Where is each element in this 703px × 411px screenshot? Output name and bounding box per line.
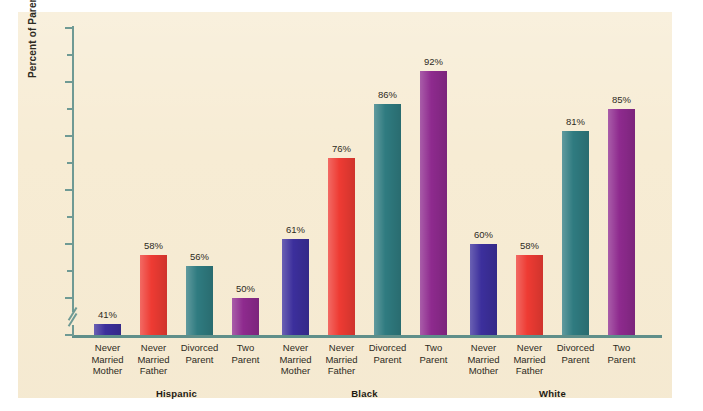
bar-value-label: 41%: [98, 309, 117, 320]
bar-hispanic-divorced-parent[interactable]: 56%: [186, 266, 213, 335]
bar-column: [420, 71, 447, 335]
x-category-label: TwoParent: [591, 342, 653, 365]
chart-figure: 100%90%80%70%60%50%0% Percent of Parents…: [0, 0, 703, 411]
x-category-label-line: Father: [123, 365, 185, 377]
bar-black-never-married-father[interactable]: 76%: [328, 158, 355, 335]
bar-black-divorced-parent[interactable]: 86%: [374, 104, 401, 335]
bar-hispanic-two-parent[interactable]: 50%: [232, 298, 259, 335]
bar-value-label: 60%: [474, 229, 493, 240]
bar-white-never-married-father[interactable]: 58%: [516, 255, 543, 335]
y-tick-0: [65, 334, 74, 336]
bar-hispanic-never-married-mother[interactable]: 41%: [94, 324, 121, 335]
y-tick-minor-55: [67, 270, 73, 272]
x-axis-line: [72, 335, 662, 338]
x-category-label-line: Parent: [591, 354, 653, 366]
bar-white-never-married-mother[interactable]: 60%: [470, 244, 497, 335]
axis-break-icon: [65, 308, 81, 328]
bar-black-two-parent[interactable]: 92%: [420, 71, 447, 335]
bar-value-label: 58%: [144, 240, 163, 251]
bar-value-label: 50%: [236, 283, 255, 294]
x-category-label-line: Two: [591, 342, 653, 354]
bar-value-label: 85%: [612, 94, 631, 105]
y-tick-minor-75: [67, 162, 73, 164]
bar-value-label: 76%: [332, 143, 351, 154]
y-tick-minor-65: [67, 216, 73, 218]
bar-white-divorced-parent[interactable]: 81%: [562, 131, 589, 335]
y-tick-minor-95: [67, 54, 73, 56]
bar-value-label: 61%: [286, 224, 305, 235]
bar-white-two-parent[interactable]: 85%: [608, 109, 635, 335]
x-category-label-line: Father: [499, 365, 561, 377]
group-label-black: Black: [295, 388, 435, 399]
y-axis-line: [72, 26, 74, 337]
bar-column: [608, 109, 635, 335]
plot-area: 100%90%80%70%60%50%0% Percent of Parents…: [72, 20, 662, 340]
bar-column: [282, 239, 309, 335]
bar-hispanic-never-married-father[interactable]: 58%: [140, 255, 167, 335]
y-axis-title: Percent of Parents Who Are High School G…: [27, 0, 38, 78]
bar-column: [470, 244, 497, 335]
y-tick-80: [65, 135, 74, 137]
bar-column: [186, 266, 213, 335]
group-label-hispanic: Hispanic: [107, 388, 247, 399]
bar-value-label: 56%: [190, 251, 209, 262]
bar-column: [562, 131, 589, 335]
y-tick-90: [65, 81, 74, 83]
y-tick-100: [65, 27, 74, 29]
y-tick-50: [65, 297, 74, 299]
bar-column: [94, 324, 121, 335]
bar-column: [374, 104, 401, 335]
bar-value-label: 86%: [378, 89, 397, 100]
x-category-label-line: Father: [311, 365, 373, 377]
group-label-white: White: [483, 388, 623, 399]
bar-black-never-married-mother[interactable]: 61%: [282, 239, 309, 335]
bar-column: [232, 298, 259, 335]
y-tick-70: [65, 189, 74, 191]
bar-value-label: 58%: [520, 240, 539, 251]
y-tick-minor-85: [67, 108, 73, 110]
y-tick-60: [65, 243, 74, 245]
bar-column: [328, 158, 355, 335]
bar-column: [140, 255, 167, 335]
bar-column: [516, 255, 543, 335]
bar-value-label: 92%: [424, 56, 443, 67]
bar-value-label: 81%: [566, 116, 585, 127]
